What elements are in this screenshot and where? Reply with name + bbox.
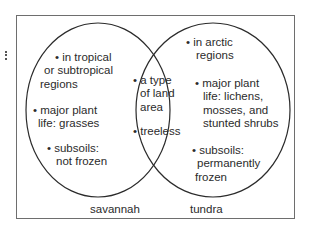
- tundra-item-2-line-4: stunted shrubs: [203, 117, 278, 131]
- tundra-label: tundra: [190, 203, 223, 215]
- overlap-item-1-line-2: of land: [140, 87, 175, 101]
- tundra-item-2-line-3: mosses, and: [203, 104, 268, 118]
- tundra-item-3-line-1: • subsoils:: [192, 144, 244, 158]
- tundra-item-2-line-2: life: lichens,: [203, 90, 263, 104]
- tundra-item-1-line-2: regions: [196, 49, 234, 63]
- savannah-label: savannah: [90, 203, 140, 215]
- overlap-item-2-line-1: • treeless: [133, 125, 181, 139]
- overlap-item-1-line-3: area: [140, 101, 163, 115]
- savannah-item-1-line-1: • in tropical: [55, 51, 111, 65]
- savannah-item-2-line-2: life: grasses: [38, 117, 99, 131]
- savannah-item-3-line-1: • subsoils:: [47, 142, 99, 156]
- savannah-item-3-line-2: not frozen: [56, 155, 107, 169]
- savannah-item-1-line-2: or subtropical: [44, 64, 113, 78]
- tundra-item-2-line-1: • major plant: [195, 77, 259, 91]
- overlap-item-1-line-1: • a type: [133, 74, 172, 88]
- tundra-item-3-line-2: permanently: [197, 157, 260, 171]
- savannah-item-1-line-3: regions: [40, 78, 78, 92]
- savannah-item-2-line-1: • major plant: [33, 104, 97, 118]
- tundra-item-1-line-1: • in arctic: [186, 36, 233, 50]
- tundra-item-3-line-3: frozen: [195, 171, 227, 185]
